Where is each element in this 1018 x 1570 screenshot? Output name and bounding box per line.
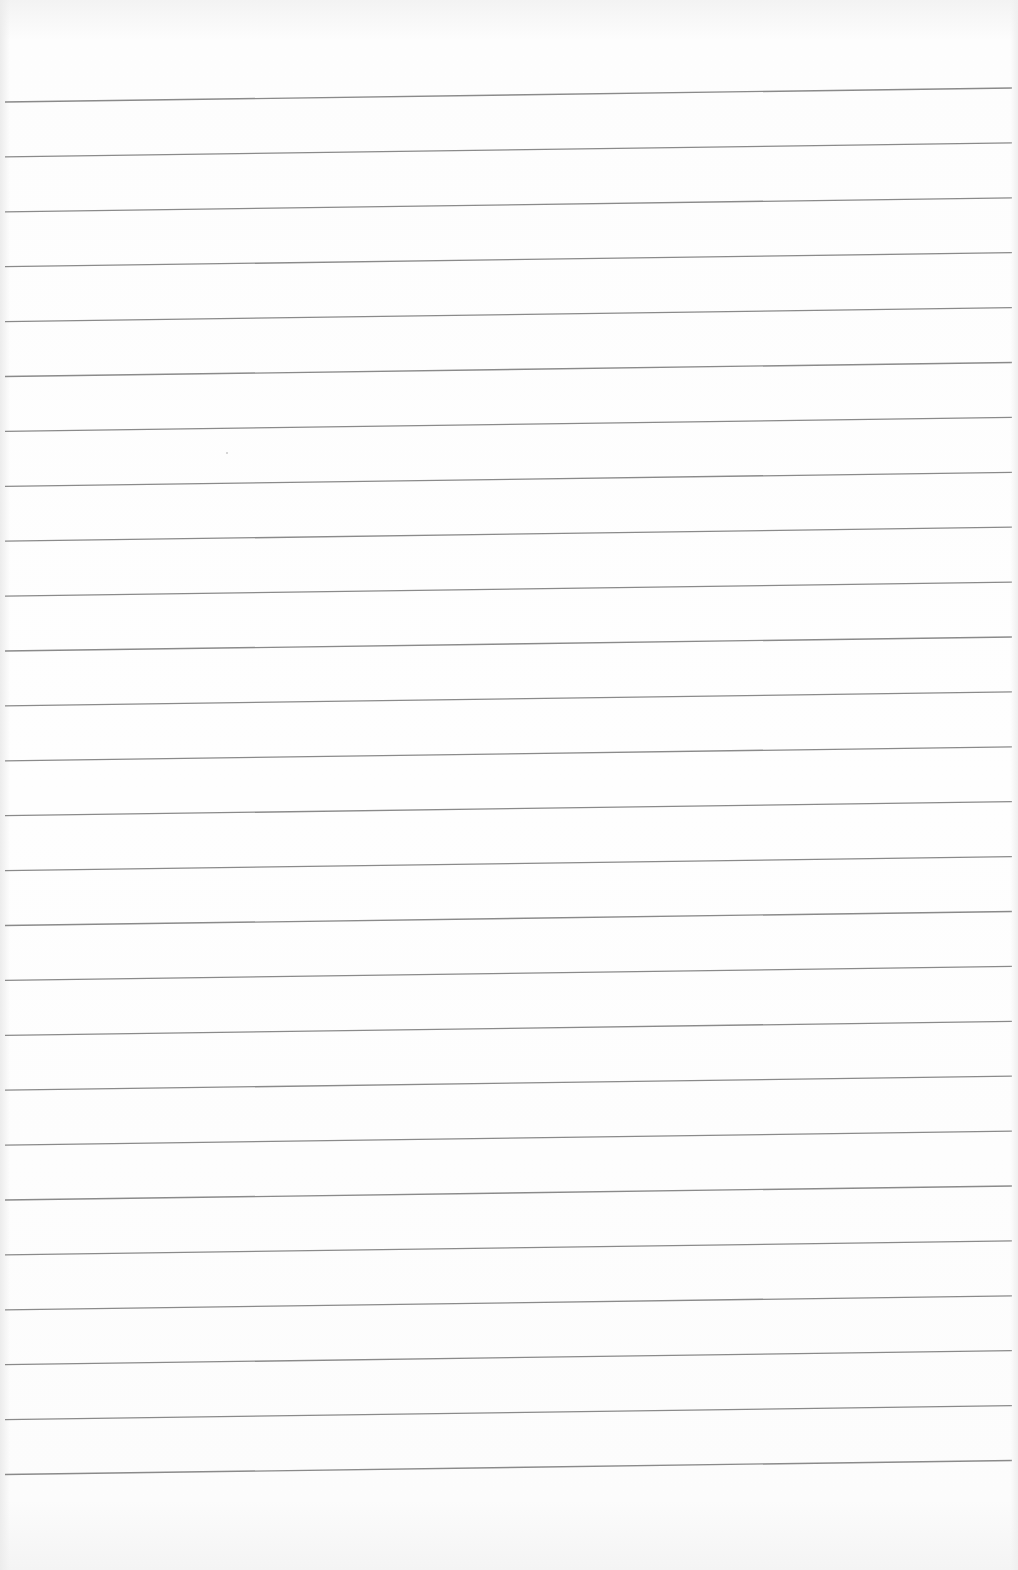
ruled-line	[5, 472, 1012, 486]
ruled-line	[5, 637, 1012, 651]
ruled-line	[5, 1241, 1012, 1255]
ruled-line	[5, 143, 1012, 157]
ruled-line	[5, 308, 1012, 322]
ruled-line	[5, 1406, 1012, 1420]
ruled-line	[5, 253, 1012, 267]
ruled-line	[5, 1131, 1012, 1145]
ruled-line	[5, 857, 1012, 871]
ruled-line	[5, 1021, 1012, 1035]
ruled-line	[5, 802, 1012, 816]
ruled-line	[5, 1461, 1012, 1475]
ruled-line	[5, 527, 1012, 541]
ruled-line	[5, 1076, 1012, 1090]
ruled-line	[5, 88, 1012, 102]
ruled-line	[5, 1186, 1012, 1200]
ruled-line	[5, 363, 1012, 377]
ruled-line	[5, 747, 1012, 761]
ruled-line	[5, 966, 1012, 980]
ruled-line	[5, 912, 1012, 926]
ruled-line	[5, 1296, 1012, 1310]
ruled-paper-sheet	[0, 0, 1018, 1570]
ruled-line	[5, 198, 1012, 212]
ruled-line	[5, 582, 1012, 596]
paper-speck	[226, 452, 228, 454]
ruled-line	[5, 692, 1012, 706]
ruled-line	[5, 1351, 1012, 1365]
ruled-line	[5, 417, 1012, 431]
ruled-lines	[0, 0, 1018, 1570]
